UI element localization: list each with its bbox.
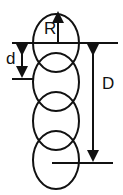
circle — [33, 53, 79, 111]
stacked-circles-diagram: R d D — [0, 0, 123, 195]
circle — [33, 92, 79, 150]
circle — [33, 131, 79, 189]
d-label: d — [6, 49, 15, 68]
D-label: D — [102, 74, 114, 93]
radius-label: R — [44, 19, 56, 38]
